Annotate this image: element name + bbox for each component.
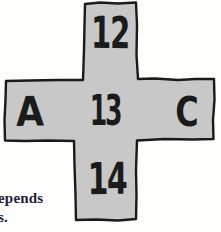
caption-fragment-line-2: s. xyxy=(0,208,43,227)
cross-top-label-12: 12 xyxy=(91,11,129,55)
cross-right-label-c: C xyxy=(175,92,198,133)
ambiguous-context-figure: 12 A 13 C 14 epends s. xyxy=(0,0,221,232)
caption-fragment-line-1: epends xyxy=(0,189,43,208)
caption-fragment: epends s. xyxy=(0,189,43,227)
cross-center-label-13: 13 xyxy=(90,90,120,132)
cross-bottom-label-14: 14 xyxy=(87,157,126,201)
cross-left-label-a: A xyxy=(16,91,45,133)
